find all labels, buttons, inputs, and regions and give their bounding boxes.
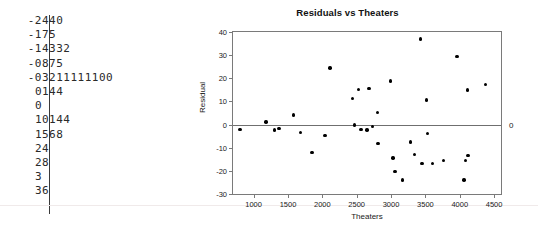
x-axis-tick-label: 1000: [245, 200, 262, 209]
data-point: [351, 97, 354, 100]
stem-value: 0: [18, 85, 42, 99]
data-point: [393, 170, 396, 173]
data-point: [310, 151, 313, 154]
data-point: [376, 142, 379, 145]
stem-value: 0: [18, 99, 42, 113]
stem-value: -1: [18, 42, 42, 56]
y-axis-tick-label: 40: [219, 28, 227, 37]
y-axis-tick-label: -10: [216, 143, 227, 152]
data-point: [419, 37, 422, 40]
stem-and-leaf-panel: -2440-175-14332-0875-0321111110001440101…: [0, 0, 185, 230]
y-axis-label: Residual: [198, 82, 207, 113]
leaf-values: 0144: [42, 113, 113, 127]
data-point: [367, 87, 370, 90]
data-point: [409, 140, 412, 143]
y-axis-tick: [229, 171, 233, 172]
leaf-values: 6: [42, 184, 113, 198]
y-axis-tick: [229, 194, 233, 195]
y-axis-tick: [229, 148, 233, 149]
data-point: [353, 123, 356, 126]
residuals-scatter-chart: Residuals vs Theaters Residual 0 -30-20-…: [190, 0, 538, 230]
data-point: [442, 159, 445, 162]
x-axis-tick: [391, 194, 392, 198]
data-point: [462, 178, 465, 181]
data-point: [389, 79, 392, 82]
stem-value: 1: [18, 113, 42, 127]
plot-area: 0 -30-20-1001020304010001500200025003000…: [233, 32, 501, 194]
data-point: [371, 125, 374, 128]
chart-title: Residuals vs Theaters: [190, 7, 505, 18]
stem-leaf-row: 0144: [18, 85, 113, 99]
y-axis-tick: [229, 55, 233, 56]
leaf-values: 4: [42, 142, 113, 156]
stem-leaf-row: -14332: [18, 42, 113, 56]
data-point: [466, 154, 469, 157]
data-point: [376, 111, 379, 114]
stem-leaf-row: 36: [18, 184, 113, 198]
x-axis-tick: [357, 194, 358, 198]
y-axis-tick-label: 10: [219, 97, 227, 106]
data-point: [464, 159, 467, 162]
leaf-values: [42, 99, 113, 113]
stem-value: -0: [18, 71, 42, 85]
y-axis-tick: [229, 125, 233, 126]
data-point: [413, 153, 416, 156]
x-axis-tick-label: 1500: [280, 200, 297, 209]
stem-leaf-row: 24: [18, 142, 113, 156]
data-point: [273, 128, 276, 131]
leaf-values: 875: [42, 57, 113, 71]
stem-and-leaf-table: -2440-175-14332-0875-0321111110001440101…: [18, 14, 113, 199]
data-point: [484, 83, 487, 86]
plot-frame: 0 -30-20-1001020304010001500200025003000…: [232, 31, 502, 195]
stem-leaf-row: -2440: [18, 14, 113, 28]
x-axis-tick-label: 2500: [348, 200, 365, 209]
stem-value: 3: [18, 170, 42, 184]
data-point: [238, 128, 241, 131]
y-axis-tick: [229, 32, 233, 33]
stem-leaf-row: 1568: [18, 128, 113, 142]
y-axis-tick-label: 0: [223, 120, 227, 129]
stem-value: 2: [18, 142, 42, 156]
x-axis-tick: [494, 194, 495, 198]
stem-and-leaf-rows: -2440-175-14332-0875-0321111110001440101…: [18, 14, 113, 199]
leaf-values: 568: [42, 128, 113, 142]
leaf-values: [42, 170, 113, 184]
x-axis-tick: [322, 194, 323, 198]
data-point: [431, 162, 434, 165]
data-point: [323, 134, 326, 137]
x-axis-tick: [460, 194, 461, 198]
y-axis-tick-label: -30: [216, 190, 227, 199]
data-point: [277, 127, 280, 130]
x-axis-tick-label: 3000: [383, 200, 400, 209]
data-point: [455, 55, 458, 58]
data-point: [328, 66, 331, 69]
stem-value: -1: [18, 28, 42, 42]
x-axis-tick: [425, 194, 426, 198]
data-point: [299, 131, 302, 134]
data-point: [359, 128, 362, 131]
data-point: [426, 132, 429, 135]
leaf-values: 4332: [42, 42, 113, 56]
leaf-values: 8: [42, 156, 113, 170]
stem-leaf-row: -0875: [18, 57, 113, 71]
y-axis-tick: [229, 78, 233, 79]
stem-leaf-row: 3: [18, 170, 113, 184]
zero-reference-line-label: 0: [509, 120, 513, 129]
data-point: [365, 128, 368, 131]
stem-value: -2: [18, 14, 42, 28]
stem-leaf-row: 0: [18, 99, 113, 113]
zero-reference-line: [233, 125, 501, 126]
x-axis-label: Theaters: [232, 212, 502, 221]
x-axis-tick-label: 3500: [417, 200, 434, 209]
leaf-values: 440: [42, 14, 113, 28]
stem-value: 1: [18, 128, 42, 142]
data-point: [420, 162, 423, 165]
x-axis-tick: [254, 194, 255, 198]
leaf-values: 3211111100: [42, 71, 113, 85]
stem-value: 3: [18, 184, 42, 198]
data-point: [466, 88, 469, 91]
stem-leaf-row: -03211111100: [18, 71, 113, 85]
data-point: [357, 88, 360, 91]
data-point: [391, 156, 394, 159]
leaf-values: 75: [42, 28, 113, 42]
